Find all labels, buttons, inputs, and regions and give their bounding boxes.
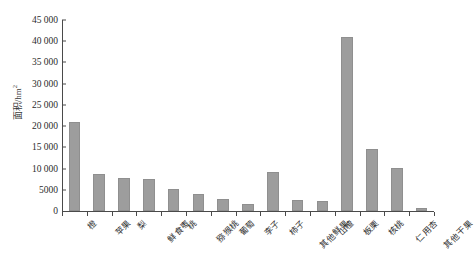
x-tick-mark <box>62 212 63 216</box>
y-tick-label: 10 000 <box>4 164 58 173</box>
x-tick-label: 其他干果 <box>439 216 474 251</box>
x-tick-mark <box>260 212 261 216</box>
y-tick-label: 25 000 <box>4 100 58 109</box>
x-tick-mark <box>335 212 336 216</box>
x-tick-mark <box>434 212 435 216</box>
x-tick-label: 苹果 <box>112 216 134 238</box>
x-tick-label: 梨 <box>134 216 149 231</box>
x-tick-mark <box>112 212 113 216</box>
x-tick-mark <box>161 212 162 216</box>
y-tick-mark <box>62 62 66 63</box>
y-axis-tick-labels: 45 00040 00035 00030 00025 00020 00015 0… <box>4 0 58 275</box>
bar <box>69 122 80 211</box>
y-tick-label: 5000 <box>4 185 58 194</box>
bar <box>143 179 154 211</box>
y-tick-mark <box>62 189 66 190</box>
y-tick-label: 0 <box>4 207 58 216</box>
y-tick-label: 20 000 <box>4 122 58 131</box>
x-tick-label: 橙 <box>84 216 99 231</box>
y-tick-label: 30 000 <box>4 79 58 88</box>
x-axis-tick-labels: 橙苹果梨鲜食枣桃猕猴桃葡萄李子柿子其他鲜果山楂板栗核桃仁用杏其他干果 <box>62 216 434 275</box>
bar <box>341 37 352 211</box>
bar <box>217 199 228 211</box>
x-tick-label: 仁用杏 <box>412 216 440 244</box>
x-tick-mark <box>211 212 212 216</box>
x-tick-mark <box>186 212 187 216</box>
y-tick-mark <box>62 168 66 169</box>
x-tick-mark <box>285 212 286 216</box>
bar <box>292 200 303 211</box>
x-tick-mark <box>310 212 311 216</box>
y-tick-mark <box>62 104 66 105</box>
bar <box>193 194 204 211</box>
bar <box>168 189 179 211</box>
x-tick-label: 李子 <box>260 216 282 238</box>
x-tick-mark <box>87 212 88 216</box>
y-tick-label: 35 000 <box>4 58 58 67</box>
y-tick-mark <box>62 147 66 148</box>
bar <box>391 168 402 211</box>
y-tick-mark <box>62 83 66 84</box>
bar <box>93 174 104 211</box>
y-tick-mark <box>62 41 66 42</box>
x-tick-label: 板栗 <box>360 216 382 238</box>
bars-container <box>62 20 434 211</box>
bar <box>242 204 253 211</box>
y-tick-mark <box>62 20 66 21</box>
bar <box>267 172 278 211</box>
y-tick-label: 40 000 <box>4 37 58 46</box>
x-tick-mark <box>384 212 385 216</box>
y-tick-mark <box>62 126 66 127</box>
bar <box>118 178 129 211</box>
x-tick-mark <box>236 212 237 216</box>
bar <box>416 208 427 211</box>
x-tick-label: 核桃 <box>384 216 406 238</box>
x-tick-label: 葡萄 <box>236 216 258 238</box>
x-tick-mark <box>136 212 137 216</box>
bar <box>366 149 377 211</box>
x-tick-mark <box>360 212 361 216</box>
x-tick-mark <box>409 212 410 216</box>
y-tick-label: 15 000 <box>4 143 58 152</box>
y-tick-label: 45 000 <box>4 16 58 25</box>
bar <box>317 201 328 211</box>
x-tick-label: 柿子 <box>285 216 307 238</box>
